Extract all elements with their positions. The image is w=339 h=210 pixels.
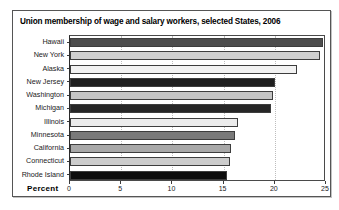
bar-row: [70, 89, 326, 102]
bar-row: [70, 63, 326, 76]
bar-row: [70, 76, 326, 89]
y-axis-label-new-york: New York: [34, 48, 64, 61]
x-axis-title: Percent: [27, 184, 58, 193]
bar-row: [70, 116, 326, 129]
screenshot-canvas: Union membership of wage and salary work…: [0, 0, 339, 210]
x-axis-tick-20: [274, 181, 275, 184]
bar-row: [70, 142, 326, 155]
x-axis-tick-label-15: 15: [219, 185, 227, 192]
y-axis-label-minnesota: Minnesota: [31, 128, 64, 141]
x-axis-tick-label-0: 0: [67, 185, 71, 192]
x-axis-tick-label-10: 10: [167, 185, 175, 192]
y-axis-label-washington: Washington: [26, 88, 64, 101]
x-axis-tick-0: [69, 181, 70, 184]
x-axis: 0510152025: [69, 181, 325, 199]
bar-row: [70, 49, 326, 62]
chart-frame: Union membership of wage and salary work…: [12, 10, 331, 197]
x-axis-tick-5: [120, 181, 121, 184]
x-axis-tick-label-20: 20: [270, 185, 278, 192]
bar-series: [70, 36, 324, 180]
bar: [70, 78, 275, 87]
y-axis-label-illinois: Illinois: [44, 115, 64, 128]
chart-title: Union membership of wage and salary work…: [20, 17, 325, 27]
bar: [70, 144, 231, 153]
bar-row: [70, 129, 326, 142]
y-axis-label-connecticut: Connecticut: [26, 154, 64, 167]
x-axis-tick-label-25: 25: [321, 185, 329, 192]
bar: [70, 38, 323, 47]
bar: [70, 104, 271, 113]
y-axis-category-labels: HawaiiNew YorkAlaskaNew JerseyWashington…: [13, 35, 67, 181]
bar-row: [70, 155, 326, 168]
bar-row: [70, 36, 326, 49]
y-axis-label-california: California: [34, 141, 64, 154]
x-axis-tick-10: [171, 181, 172, 184]
bar-row: [70, 102, 326, 115]
bar: [70, 157, 230, 166]
plot-area: [69, 35, 325, 181]
bar: [70, 91, 273, 100]
bar: [70, 51, 320, 60]
y-axis-label-alaska: Alaska: [42, 62, 64, 75]
y-axis-label-rhode-island: Rhode Island: [22, 168, 64, 181]
x-axis-tick-label-5: 5: [118, 185, 122, 192]
y-axis-label-new-jersey: New Jersey: [26, 75, 64, 88]
bar: [70, 118, 238, 127]
bar: [70, 65, 297, 74]
bar-row: [70, 169, 326, 182]
y-axis-label-michigan: Michigan: [35, 101, 64, 114]
y-axis-label-hawaii: Hawaii: [42, 35, 64, 48]
x-axis-tick-25: [325, 181, 326, 184]
bar: [70, 171, 227, 180]
bar: [70, 131, 235, 140]
x-axis-tick-15: [223, 181, 224, 184]
